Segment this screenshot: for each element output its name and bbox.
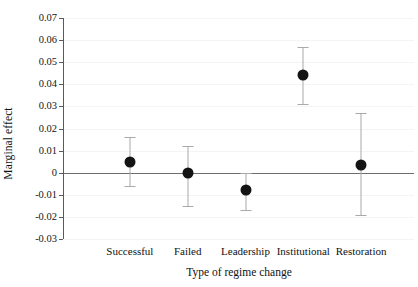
error-bar-cap: [298, 47, 309, 48]
y-axis-tick-label: -0.01: [35, 190, 57, 201]
error-bar-cap: [124, 137, 135, 138]
x-axis-category-label: Leadership: [221, 246, 270, 257]
gridline: [64, 40, 414, 41]
error-bar-cap: [356, 215, 367, 216]
y-axis-tick-label: 0.07: [39, 13, 57, 24]
data-point: [240, 185, 251, 196]
y-axis-tick: [59, 195, 63, 196]
gridline: [64, 62, 414, 63]
y-axis-tick: [59, 62, 63, 63]
gridline: [64, 84, 414, 85]
data-point: [298, 70, 309, 81]
y-axis-tick: [59, 106, 63, 107]
gridline: [64, 217, 414, 218]
data-point: [356, 159, 367, 170]
y-axis-tick-label: 0.04: [39, 79, 57, 90]
x-axis-title: Type of regime change: [60, 266, 418, 278]
y-axis-tick: [59, 84, 63, 85]
y-axis-tick-label: -0.03: [35, 234, 57, 245]
x-axis-category-label: Failed: [174, 246, 202, 257]
error-bar-cap: [182, 146, 193, 147]
y-axis-tick: [59, 40, 63, 41]
x-axis-category-label: Institutional: [277, 246, 330, 257]
error-bar-cap: [182, 206, 193, 207]
y-axis-tick-label: 0.05: [39, 57, 57, 68]
gridline: [64, 106, 414, 107]
marginal-effect-chart: Marginal effect 0.070.060.050.040.030.02…: [0, 0, 418, 287]
gridline: [64, 239, 414, 240]
y-axis-tick: [59, 173, 63, 174]
y-axis-tick-label: 0.06: [39, 35, 57, 46]
error-bar-cap: [298, 104, 309, 105]
error-bar-cap: [240, 210, 251, 211]
plot-area: 0.070.060.050.040.030.020.010-0.01-0.02-…: [63, 14, 414, 242]
y-axis-tick: [59, 239, 63, 240]
data-point: [124, 156, 135, 167]
y-axis-tick-label: 0.02: [39, 123, 57, 134]
x-axis-category-label: Successful: [106, 246, 153, 257]
error-bar-cap: [240, 173, 251, 174]
y-axis-title: Marginal effect: [0, 0, 16, 287]
y-axis-tick: [59, 129, 63, 130]
y-axis-tick-label: 0: [52, 167, 57, 178]
data-point: [182, 167, 193, 178]
gridline: [64, 18, 414, 19]
x-axis-category-label: Restoration: [336, 246, 387, 257]
y-axis-tick: [59, 18, 63, 19]
error-bar-cap: [124, 186, 135, 187]
error-bar-cap: [356, 113, 367, 114]
y-axis-tick-label: -0.02: [35, 212, 57, 223]
y-axis-tick: [59, 151, 63, 152]
y-axis-tick-label: 0.01: [39, 145, 57, 156]
y-axis-tick-label: 0.03: [39, 101, 57, 112]
y-axis-tick: [59, 217, 63, 218]
